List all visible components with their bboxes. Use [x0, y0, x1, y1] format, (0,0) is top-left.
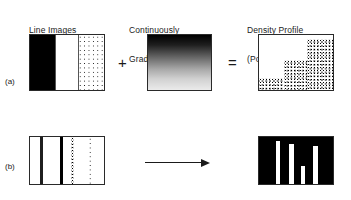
figure-container: Line Images (Negative) Continuously Grad…: [0, 0, 351, 200]
panel-a-density-profile: [258, 34, 334, 91]
staircase-step-1: [259, 78, 284, 90]
spike-1: [276, 141, 280, 184]
band-medium: [78, 35, 104, 90]
wedge-gradient-fade: [148, 35, 211, 90]
panel-a-graded-wedge: [147, 34, 212, 91]
thin-line-4: [88, 137, 91, 184]
thin-line-2: [60, 137, 63, 184]
thin-line-1: [40, 137, 43, 184]
spike-3: [301, 166, 305, 184]
spike-4: [313, 146, 318, 184]
right-arrow-icon: [145, 158, 211, 167]
panel-b-line-images: [29, 136, 105, 185]
band-light: [55, 35, 78, 90]
row-label-b: (b): [5, 162, 15, 171]
band-divider-1: [55, 35, 56, 90]
panel-a-line-images: [29, 34, 105, 91]
plus-operator: +: [118, 55, 127, 70]
staircase-step-2: [284, 60, 307, 90]
staircase-step-3: [307, 39, 333, 90]
panel-b-density-profile: [258, 136, 334, 185]
spikes-background-stipple: [259, 137, 333, 184]
spike-2: [289, 144, 294, 184]
row-label-a: (a): [5, 77, 15, 86]
band-dark: [30, 35, 55, 90]
equals-operator: =: [228, 55, 237, 70]
band-divider-2: [78, 35, 79, 90]
thin-line-3: [71, 137, 74, 184]
arrow-shaft: [145, 162, 203, 163]
arrow-head: [201, 159, 210, 167]
